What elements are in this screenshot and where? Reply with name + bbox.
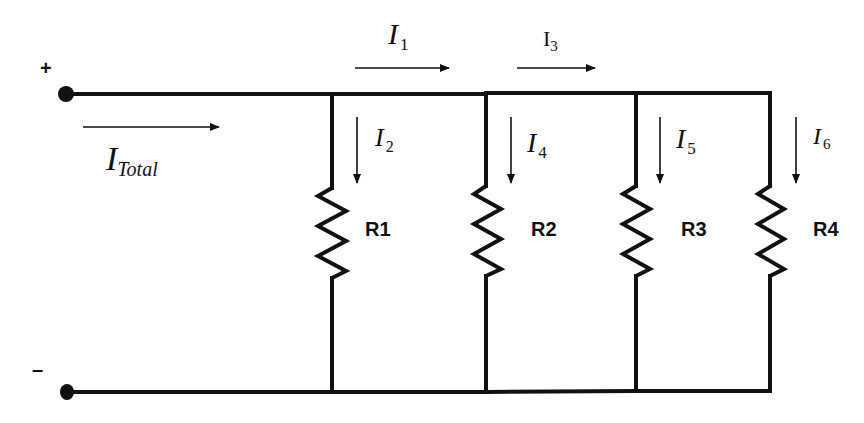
resistor-r4-symbol — [758, 186, 784, 276]
current-label-i6: I6 — [812, 123, 831, 152]
current-label-i1: I1 — [387, 17, 409, 54]
current-label-i5: I5 — [675, 123, 696, 158]
resistor-r1-label: R1 — [365, 218, 391, 240]
resistor-r2-label: R2 — [531, 218, 557, 240]
resistor-r2-symbol — [474, 186, 501, 276]
top-rail-wire — [66, 93, 770, 94]
branch-r2 — [474, 94, 501, 392]
resistor-r3-symbol — [623, 186, 650, 276]
resistor-r3-label: R3 — [681, 218, 707, 240]
bottom-rail-wire — [67, 391, 770, 392]
branch-r1 — [318, 94, 346, 392]
current-label-i4: I4 — [526, 127, 547, 162]
branch-r4 — [758, 93, 784, 391]
resistor-r4-label: R4 — [813, 218, 839, 240]
current-label-i2: I2 — [374, 123, 394, 155]
parallel-circuit-diagram: + – R1 R2 R3 R4 ITotal — [0, 0, 864, 423]
current-label-total: ITotal — [105, 140, 158, 180]
resistor-r1-symbol — [318, 188, 346, 278]
positive-terminal-label: + — [40, 57, 52, 79]
branch-r3 — [623, 93, 650, 391]
negative-terminal-label: – — [32, 358, 43, 380]
current-label-i3: I3 — [543, 26, 558, 54]
